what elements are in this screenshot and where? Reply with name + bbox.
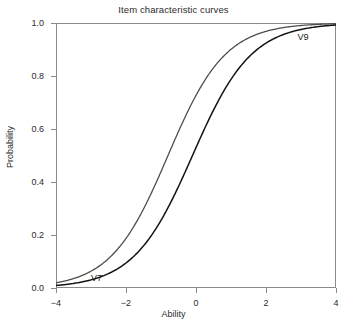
curve-v9 bbox=[56, 24, 336, 283]
y-tick-label: 0.8 bbox=[31, 71, 44, 81]
x-tick-label: −4 bbox=[51, 298, 61, 308]
curve-v7 bbox=[56, 25, 336, 285]
x-axis-ticks: −4−2024 bbox=[0, 293, 347, 309]
x-tick-mark bbox=[56, 288, 57, 293]
y-tick-label: 0.0 bbox=[31, 283, 44, 293]
x-tick-label: 0 bbox=[193, 298, 198, 308]
x-tick-mark bbox=[196, 288, 197, 293]
series-label-v7: V7 bbox=[91, 273, 102, 283]
x-axis-title: Ability bbox=[0, 309, 347, 319]
x-tick-label: 2 bbox=[263, 298, 268, 308]
y-tick-label: 0.6 bbox=[31, 124, 44, 134]
x-tick-mark bbox=[126, 288, 127, 293]
x-tick-label: 4 bbox=[333, 298, 338, 308]
curves-layer bbox=[56, 23, 336, 288]
x-tick-mark bbox=[336, 288, 337, 293]
y-tick-label: 0.4 bbox=[31, 177, 44, 187]
y-tick-label: 1.0 bbox=[31, 18, 44, 28]
x-tick-label: −2 bbox=[121, 298, 131, 308]
y-axis-ticks: 0.00.20.40.60.81.0 bbox=[0, 0, 52, 331]
series-label-v9: V9 bbox=[298, 32, 309, 42]
plot-area: V9V7 bbox=[56, 23, 336, 288]
chart-figure: Item characteristic curves Probability A… bbox=[0, 0, 347, 331]
chart-title: Item characteristic curves bbox=[0, 4, 347, 15]
y-tick-label: 0.2 bbox=[31, 230, 44, 240]
x-tick-mark bbox=[266, 288, 267, 293]
